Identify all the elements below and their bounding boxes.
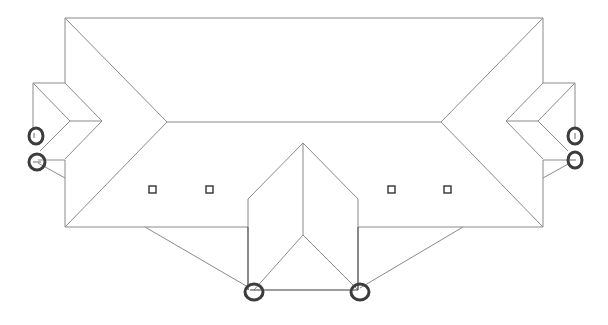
main-roof-right-lower-hip: [441, 122, 543, 227]
downspout-icon: [29, 128, 43, 144]
right-wing-lower-hip-inner: [506, 121, 543, 159]
vent-icon: [444, 186, 451, 193]
right-wing-lower-hip-outer: [538, 121, 568, 151]
right-wing-hip-inner: [506, 83, 543, 121]
left-wing-hip-inner: [65, 83, 102, 121]
main-roof-right-hip: [441, 18, 543, 122]
main-hip-roof: [65, 18, 543, 227]
vent-icon: [388, 186, 395, 193]
main-roof-left-lower-hip: [65, 122, 167, 227]
main-roof-left-hip: [65, 18, 167, 122]
front-right-gutter-slope: [360, 227, 463, 288]
downspout-icon: [29, 154, 45, 170]
downspout-icon: [568, 128, 582, 144]
right-wing-roof: [506, 83, 575, 178]
vent-icon: [149, 186, 156, 193]
front-left-gutter-slope: [145, 227, 248, 287]
downspouts: [29, 128, 582, 300]
roof-plan-drawing: [0, 0, 608, 325]
front-wing-left-hip: [254, 235, 303, 290]
right-wing-gutter-slope: [543, 163, 570, 178]
front-wing-left-rake: [248, 143, 303, 199]
vent-icon: [206, 186, 213, 193]
downspout-icon: [351, 284, 369, 300]
left-wing-lower-hip-inner: [65, 121, 102, 159]
left-wing-hip-outer: [33, 83, 70, 121]
downspout-icon: [568, 152, 582, 168]
roof-plan-diagram: [0, 0, 608, 325]
front-wing-right-rake: [303, 143, 358, 199]
downspout-icon: [245, 284, 263, 300]
right-wing-hip-outer: [538, 83, 575, 121]
roof-vents: [149, 186, 451, 193]
front-projecting-wing-roof: [145, 143, 463, 290]
front-wing-right-hip: [303, 235, 358, 290]
left-wing-gutter-slope: [38, 163, 65, 178]
